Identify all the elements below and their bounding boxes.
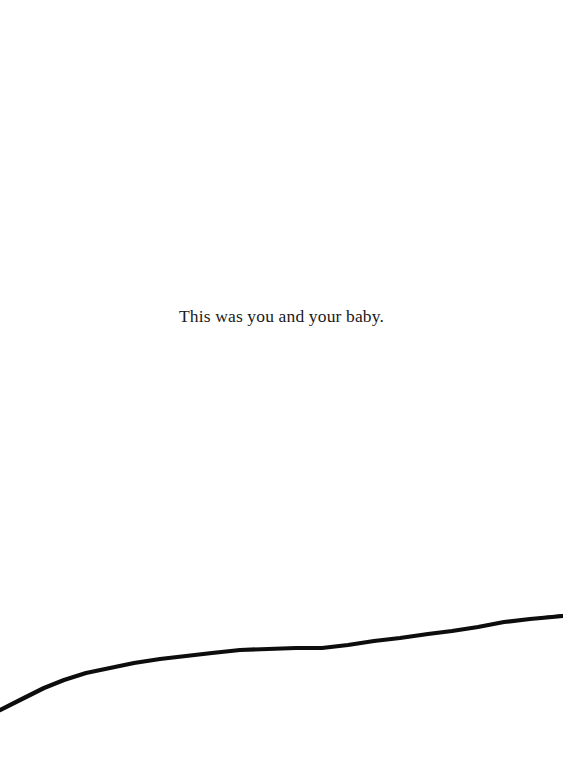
page-canvas: This was you and your baby.	[0, 0, 563, 768]
horizon-line-illustration	[0, 0, 563, 768]
horizon-stroke-taper	[540, 616, 563, 619]
caption-text: This was you and your baby.	[0, 305, 563, 327]
horizon-stroke	[0, 616, 563, 710]
